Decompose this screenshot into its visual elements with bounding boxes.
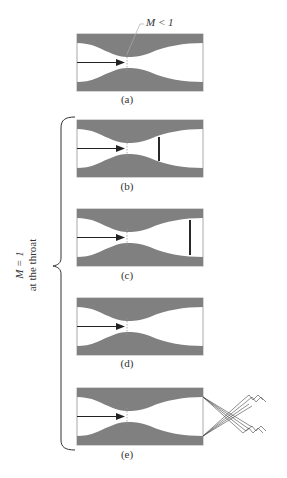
nozzle-panel-d — [77, 298, 203, 355]
panel-label-d: (d) — [107, 357, 147, 369]
panel-label-e: (e) — [107, 448, 147, 460]
exit-wave-pattern — [203, 395, 266, 436]
panel-label-c: (c) — [107, 269, 147, 281]
nozzle-panel-e — [77, 388, 266, 445]
panel-label-b: (b) — [107, 180, 147, 192]
side-label-mach: M = 1 — [13, 220, 26, 310]
nozzle-panel-a — [77, 34, 203, 91]
panel-label-a: (a) — [107, 93, 147, 105]
m-less-than-1-annotation: M < 1 — [146, 16, 174, 28]
side-label-throat: at the throat — [26, 220, 39, 310]
side-label: M = 1 at the throat — [13, 220, 93, 310]
nozzle-panel-c — [77, 209, 203, 266]
nozzle-panel-b — [77, 120, 203, 177]
